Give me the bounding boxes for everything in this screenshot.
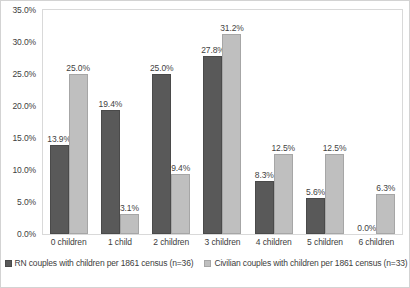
bar[interactable] [50,145,69,234]
legend-swatch-icon [204,260,211,267]
x-axis-tick-label: 5 children [299,237,350,247]
bar-group: 27.8%31.2% [197,10,248,234]
bar-slot: 3.1% [120,10,139,234]
x-axis-tick-label: 1 child [94,237,145,247]
bar-slot: 12.5% [274,10,293,234]
bar-slot: 25.0% [69,10,88,234]
bar-slot: 8.3% [255,10,274,234]
chart-legend: RN couples with children per 1861 census… [1,258,410,268]
bar-slot: 13.9% [50,10,69,234]
bar[interactable] [376,194,395,234]
bar[interactable] [203,56,222,234]
bar-group: 19.4%3.1% [94,10,145,234]
bar-value-label: 9.4% [171,163,190,173]
x-axis-tick-label: 4 children [248,237,299,247]
bar-value-label: 12.5% [323,143,347,153]
bar-group: 25.0%9.4% [146,10,197,234]
legend-label: RN couples with children per 1861 census… [15,258,194,268]
y-axis-tick-label: 30.0% [12,37,36,47]
bar-value-label: 6.3% [376,183,395,193]
x-axis-tick-label: 0 children [43,237,94,247]
bar-slot: 25.0% [152,10,171,234]
bar-chart: 0.0%5.0%10.0%15.0%20.0%25.0%30.0%35.0% 1… [0,0,410,288]
bar[interactable] [171,174,190,234]
x-axis-tick-label: 2 children [146,237,197,247]
bar-slot: 0.0% [357,10,376,234]
bar[interactable] [152,74,171,234]
bar-value-label: 19.4% [99,99,123,109]
bar[interactable] [325,154,344,234]
x-axis-tick-label: 3 children [197,237,248,247]
bar-group: 8.3%12.5% [248,10,299,234]
bar-value-label: 5.6% [306,187,325,197]
y-axis-tick-label: 25.0% [12,69,36,79]
bar[interactable] [101,110,120,234]
legend-swatch-icon [5,260,12,267]
bar[interactable] [69,74,88,234]
bar-slot: 5.6% [306,10,325,234]
bar-value-label: 8.3% [255,170,274,180]
legend-label: Civilian couples with children per 1861 … [214,258,407,268]
bar-slot: 12.5% [325,10,344,234]
bar-slot: 27.8% [203,10,222,234]
y-axis-tick-label: 5.0% [17,197,36,207]
y-axis-tick-label: 0.0% [17,229,36,239]
bar-slot: 6.3% [376,10,395,234]
bar[interactable] [120,214,139,234]
bar-value-label: 13.9% [47,134,71,144]
bar-slot: 31.2% [222,10,241,234]
bar-value-label: 27.8% [201,45,225,55]
bar-value-label: 12.5% [271,143,295,153]
bar-value-label: 31.2% [220,23,244,33]
bar-group: 0.0%6.3% [351,10,402,234]
bar-slot: 9.4% [171,10,190,234]
bar-group: 5.6%12.5% [299,10,350,234]
bar[interactable] [306,198,325,234]
y-axis-tick-label: 35.0% [12,5,36,15]
y-axis-tick-label: 15.0% [12,133,36,143]
bar-group: 13.9%25.0% [43,10,94,234]
bar[interactable] [274,154,293,234]
legend-item[interactable]: RN couples with children per 1861 census… [5,258,194,268]
bar[interactable] [222,34,241,234]
y-axis-tick-label: 20.0% [12,101,36,111]
bar[interactable] [255,181,274,234]
x-axis-tick-label: 6 children [351,237,402,247]
plot-area: 13.9%25.0%19.4%3.1%25.0%9.4%27.8%31.2%8.… [43,10,402,234]
bars-layer: 13.9%25.0%19.4%3.1%25.0%9.4%27.8%31.2%8.… [43,10,402,234]
bar-slot: 19.4% [101,10,120,234]
bar-value-label: 25.0% [66,63,90,73]
bar-value-label: 3.1% [120,203,139,213]
bar-value-label: 0.0% [357,223,376,233]
legend-item[interactable]: Civilian couples with children per 1861 … [204,258,407,268]
y-axis-tick-label: 10.0% [12,165,36,175]
x-axis: 0 children1 child2 children3 children4 c… [43,237,402,253]
bar-value-label: 25.0% [150,63,174,73]
y-axis: 0.0%5.0%10.0%15.0%20.0%25.0%30.0%35.0% [1,9,40,235]
